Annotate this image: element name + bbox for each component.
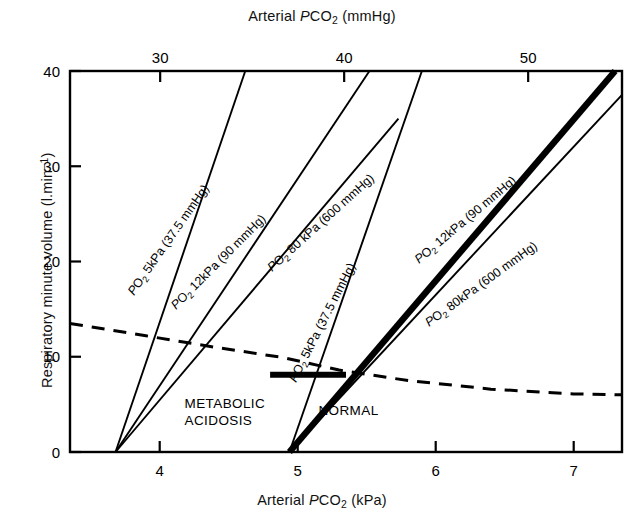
x-tick-label-top: 50 xyxy=(520,49,537,66)
y-tick-label: 20 xyxy=(43,253,60,270)
y-tick-label: 40 xyxy=(43,63,60,80)
curve-label-rest: 80 kPa (600 mmHg) xyxy=(282,171,377,259)
y-tick-label: 10 xyxy=(43,348,60,365)
curve-label-rest: 5kPa (37.5 mmHg) xyxy=(138,182,212,279)
region-label-line1: METABOLIC xyxy=(185,396,266,411)
y-tick-label: 0 xyxy=(52,444,60,461)
region-labels: METABOLICACIDOSISNORMAL xyxy=(185,396,379,428)
curve-label-rest: 5kPa (37.5 mmHg) xyxy=(297,261,359,364)
curve-label-rest: 80kPa (600 mmHg) xyxy=(441,239,540,316)
curve-label-normal-po2-80kpa: PO2 80kPa (600 mmHg) xyxy=(423,239,542,331)
curve-labels: PO2 5kPa (37.5 mmHg)PO2 12kPa (90 mmHg)P… xyxy=(125,171,541,385)
y-tick-label: 30 xyxy=(43,158,60,175)
region-label-line2: ACIDOSIS xyxy=(185,413,253,428)
curve-label-rest: 12kPa (90 mmHg) xyxy=(185,212,269,296)
curve-normal-po2-5kpa xyxy=(289,71,421,452)
plot-area: 4567304050010203040 PO2 5kPa (37.5 mmHg)… xyxy=(0,0,644,528)
x-tick-label-bottom: 4 xyxy=(156,462,164,479)
curve-label-normal-po2-5kpa: PO2 5kPa (37.5 mmHg) xyxy=(286,261,360,385)
x-tick-label-bottom: 5 xyxy=(294,462,302,479)
region-label-line1: NORMAL xyxy=(318,403,378,418)
x-tick-label-bottom: 6 xyxy=(432,462,440,479)
curve-normal-po2-12kpa xyxy=(289,71,615,452)
x-tick-label-bottom: 7 xyxy=(570,462,578,479)
x-tick-label-top: 30 xyxy=(152,49,169,66)
curve-label-metabolic-acidosis-po2-80kpa: PO2 80 kPa (600 mmHg) xyxy=(265,171,379,276)
x-tick-label-top: 40 xyxy=(336,49,353,66)
respiratory-response-chart: Arterial PCO2 (mmHg) Arterial PCO2 (kPa)… xyxy=(0,0,644,528)
